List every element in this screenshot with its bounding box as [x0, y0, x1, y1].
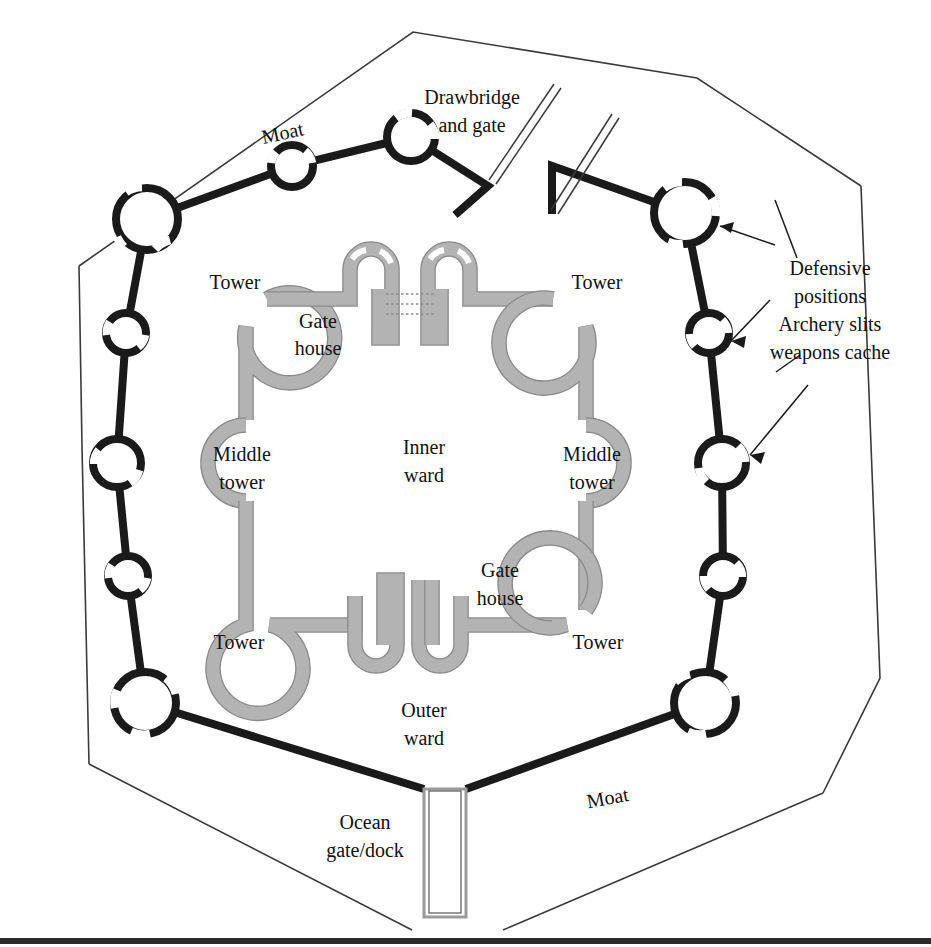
moat-boundary-bottom-right: [503, 793, 823, 930]
defensive-node-corner-top-right: [654, 182, 716, 244]
arrow-slit-gap: [271, 152, 276, 163]
arrow-slit-gap: [114, 690, 117, 708]
outer-wall-segment-bottom-right: [466, 703, 705, 789]
moat-boundary-left: [79, 266, 89, 764]
label-outer-ward-line2: ward: [404, 727, 444, 749]
annotation-defensive-line2: positions: [794, 285, 866, 308]
label-moat-bottom: Moat: [585, 783, 631, 812]
drawbridge-plank-east: [558, 118, 619, 214]
annotation-defensive-line4: weapons cache: [770, 341, 891, 364]
arrow-slit-gap: [109, 565, 112, 578]
arrow-slit-gap: [704, 576, 709, 589]
bottom-divider-rule: [0, 938, 931, 944]
label-drawbridge-line2: and gate: [438, 114, 505, 137]
label-inner-ward-line1: Inner: [403, 436, 446, 458]
arrow-slit-gap: [131, 732, 150, 735]
ocean-dock-rect: [424, 789, 466, 917]
label-drawbridge-line1: Drawbridge: [424, 86, 520, 109]
gatehouse-bottom-left-turret: [355, 580, 397, 666]
label-middle-tower-left-line1: Middle: [213, 443, 271, 465]
label-tower-top-right: Tower: [572, 271, 623, 293]
label-ocean-gate-line2: gate/dock: [326, 839, 404, 862]
leader-line-defensive-top: [775, 200, 797, 258]
arrow-slit-gap: [396, 113, 412, 118]
inner-wall-north-run-left-fill: [267, 270, 350, 299]
arrow-slit-gap: [107, 322, 110, 335]
label-tower-bottom-right: Tower: [573, 631, 624, 653]
label-middle-tower-left-line2: tower: [219, 471, 265, 493]
ocean-gate-dock-group: [424, 789, 466, 917]
defensive-node-gate-top: [387, 113, 435, 161]
moat-boundary-outline: [79, 32, 861, 266]
arrow-slit-gap: [155, 240, 170, 249]
moat-boundary-group: [79, 32, 880, 930]
label-gatehouse-top-line2: house: [295, 337, 342, 359]
arrow-slit-gap: [712, 198, 716, 216]
annotation-defensive-line3: Archery slits: [779, 313, 882, 336]
label-tower-top-left: Tower: [210, 271, 261, 293]
castle-floor-plan-figure: Moat Drawbridge and gate Tower Tower Tow…: [0, 0, 931, 947]
label-outer-ward-line1: Outer: [401, 699, 447, 721]
castle-plan-svg: Moat Drawbridge and gate Tower Tower Tow…: [0, 0, 931, 947]
label-inner-ward-line2: ward: [404, 464, 444, 486]
arrow-slit-gap: [430, 124, 435, 139]
annotation-defensive-line1: Defensive: [789, 257, 870, 279]
label-ocean-gate-line1: Ocean: [339, 811, 390, 833]
arrow-slit-gap: [688, 732, 706, 735]
label-middle-tower-right-line2: tower: [569, 471, 615, 493]
label-middle-tower-right-line1: Middle: [563, 443, 621, 465]
arrow-slit-gap: [690, 334, 695, 346]
inner-wall-south-left-edge: [213, 596, 355, 713]
arrow-slit-gap: [668, 242, 683, 244]
arrow-slit-gap: [126, 187, 142, 192]
label-gatehouse-bottom-line1: Gate: [481, 559, 519, 581]
label-gatehouse-top-line1: Gate: [299, 310, 337, 332]
leader-line-defensive-2: [731, 300, 770, 341]
label-tower-bottom-left: Tower: [214, 631, 265, 653]
gatehouse-bottom-turret-a-fill: [355, 580, 397, 666]
drawbridge-plank-east: [551, 114, 612, 210]
arrow-slit-gap: [94, 450, 99, 464]
leader-arrowhead: [750, 452, 765, 464]
leader-line-defensive-3: [750, 385, 808, 455]
inner-wall-north-right-fill: [499, 298, 589, 420]
outer-wall-segment-bottom-left: [145, 703, 424, 789]
label-gatehouse-bottom-line2: house: [477, 587, 524, 609]
inner-wall-south-left: [213, 596, 355, 713]
inner-wall-north-right: [499, 298, 589, 420]
